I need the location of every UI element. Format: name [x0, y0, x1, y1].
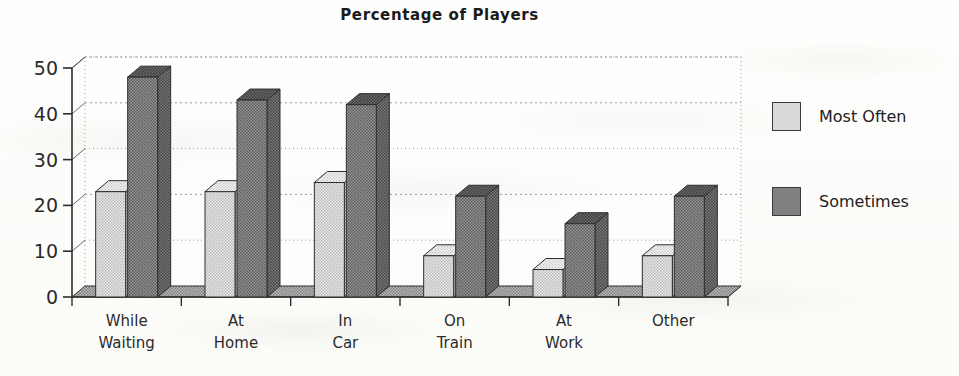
bar-sometimes-4 — [565, 213, 608, 297]
bar-sometimes-2 — [346, 94, 389, 297]
bar-sometimes-1 — [237, 89, 280, 297]
y-axis-tick-label: 30 — [34, 149, 58, 171]
x-axis-category-label: While — [106, 312, 148, 330]
bar-sometimes-3 — [456, 185, 499, 297]
x-axis-category-label: In — [338, 312, 352, 330]
chart-page: Percentage of Players 01020304050WhileWa… — [0, 0, 959, 376]
y-axis-tick-label: 10 — [34, 240, 58, 262]
legend-swatch-sometimes — [772, 187, 801, 216]
legend-label-most-often: Most Often — [819, 107, 907, 126]
y-axis-tick-label: 20 — [34, 194, 58, 216]
bar-sometimes-0 — [128, 66, 171, 297]
x-axis-category-label: Home — [214, 334, 258, 352]
bar-sometimes-5 — [674, 185, 717, 297]
legend-item-sometimes[interactable]: Sometimes — [772, 181, 952, 221]
chart-legend: Most Often Sometimes — [772, 96, 952, 266]
legend-item-most-often[interactable]: Most Often — [772, 96, 952, 136]
x-axis-category-label: Work — [545, 334, 583, 352]
x-axis-category-label: On — [444, 312, 465, 330]
x-axis-category-label: Other — [652, 312, 695, 330]
x-axis-category-label: At — [228, 312, 244, 330]
legend-label-sometimes: Sometimes — [819, 192, 909, 211]
y-axis-tick-label: 40 — [34, 103, 58, 125]
x-axis-category-label: Car — [332, 334, 359, 352]
y-axis-tick-label: 50 — [34, 57, 58, 79]
y-axis-tick-label: 0 — [46, 286, 58, 308]
x-axis-category-label: Waiting — [99, 334, 155, 352]
x-axis-category-label: At — [556, 312, 572, 330]
legend-swatch-most-often — [772, 102, 801, 131]
x-axis-category-label: Train — [436, 334, 473, 352]
